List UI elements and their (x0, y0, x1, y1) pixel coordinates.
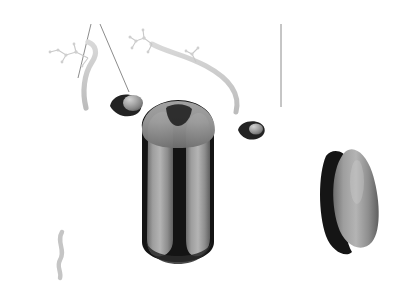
top-left-surface-protein-dome (123, 95, 143, 111)
right-integral-protein-highlight (350, 160, 364, 204)
top-right-surface-protein-dome (249, 124, 263, 135)
membrane-diagram (0, 0, 393, 283)
